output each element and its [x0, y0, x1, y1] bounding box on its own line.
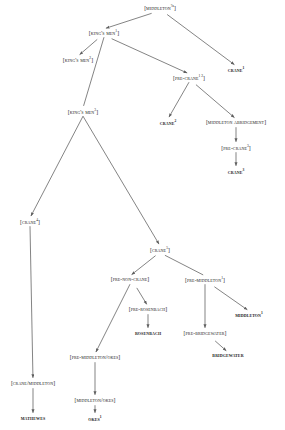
node-superscript: 1: [242, 66, 244, 70]
node-label: Crane: [228, 67, 243, 73]
edge-middleton_a-to-crane_1: [167, 14, 234, 64]
bracket-close: ]: [168, 247, 170, 253]
node-middleton_okes: [Middleton/Okes]: [74, 398, 115, 404]
node-label: Rosenbach: [135, 330, 161, 336]
node-superscript: 3: [242, 168, 244, 172]
bracket-close: ]: [91, 57, 93, 63]
node-label: Pre-Bridgewater: [186, 330, 225, 336]
edge-pre_crane_12-to-crane_2: [169, 82, 189, 117]
node-rosenbach: Rosenbach: [135, 331, 161, 337]
bracket-close: ]: [96, 109, 98, 115]
node-crane_5: [Crane5]: [150, 247, 170, 253]
node-bridgewater: Bridgewater: [212, 353, 243, 359]
node-label: Pre-Middleton/Okes: [72, 354, 119, 360]
bracket-close: ]: [38, 219, 40, 225]
bracket-close: ]: [224, 330, 226, 336]
edge-layer: [0, 0, 285, 430]
edge-pre_crane_12-to-middleton_abr: [196, 85, 234, 118]
node-label: King's Men: [91, 30, 116, 36]
node-middleton_a: [Middleton?a]: [144, 5, 176, 11]
node-crane_3: Crane3: [228, 169, 245, 175]
node-pre_crane_12: [Pre-Crane1 2]: [173, 75, 205, 81]
node-superscript: 1: [100, 415, 102, 419]
edge-pre_bridgewater-to-bridgewater: [215, 341, 226, 351]
node-label: Mathewes: [21, 415, 46, 421]
edge-pre_non_crane-to-pre_middleton_okes: [96, 284, 130, 352]
node-label: Middleton/Okes: [76, 397, 113, 403]
node-label: Pre-Rosenbach: [131, 306, 166, 312]
bracket-close: ]: [53, 380, 55, 386]
edge-kings_men_1-to-kings_men_3: [84, 37, 104, 106]
node-mathewes: Mathewes: [21, 416, 46, 422]
node-pre_rosenbach: [Pre-Rosenbach]: [129, 307, 168, 313]
node-label: Middleton: [146, 5, 171, 11]
node-label: King's Men: [65, 57, 90, 63]
node-label: Okes: [88, 416, 100, 422]
bracket-close: ]: [165, 306, 167, 312]
node-superscript: 1: [261, 311, 263, 315]
edge-kings_men_3-to-crane_4: [31, 116, 83, 216]
node-crane_1: Crane1: [228, 67, 245, 73]
node-crane_middleton: [Crane/Middleton]: [11, 381, 55, 387]
bracket-close: ]: [249, 145, 251, 151]
node-label: Crane: [152, 247, 166, 253]
bracket-close: ]: [117, 30, 119, 36]
edge-kings_men_3-to-crane_5: [83, 116, 159, 244]
node-label: Pre-Crane: [175, 75, 199, 81]
edge-crane_5-to-pre_non_crane: [132, 256, 156, 275]
node-pre_crane_3: [Pre-Crane3]: [221, 145, 250, 151]
node-label: King's Men: [70, 109, 95, 115]
node-label: Crane/Middleton: [13, 380, 53, 386]
edge-middleton_a-to-kings_men_1: [106, 13, 152, 28]
bracket-close: ]: [174, 5, 176, 11]
node-label: Middleton abridgement: [208, 119, 264, 125]
node-superscript: 2: [174, 119, 176, 123]
node-middleton_1: Middleton1: [235, 312, 263, 318]
bracket-close: ]: [223, 277, 225, 283]
edge-crane_4-to-crane_middleton: [30, 226, 33, 378]
node-pre_non_crane: [Pre-Non-Crane]: [111, 277, 150, 283]
bracket-close: ]: [147, 276, 149, 282]
node-middleton_abr: [Middleton abridgement]: [206, 120, 266, 126]
node-label: Middleton: [235, 312, 261, 318]
stemma-diagram: [Middleton?a][King's Men1][King's Men2]C…: [0, 0, 285, 430]
node-kings_men_1: [King's Men1]: [89, 30, 119, 36]
node-label: Crane: [160, 120, 175, 126]
node-label: Pre-Middleton: [187, 277, 221, 283]
node-pre_bridgewater: [Pre-Bridgewater]: [184, 331, 227, 337]
node-kings_men_3: [King's Men3]: [68, 109, 98, 115]
node-label: Crane: [228, 169, 243, 175]
edge-pre_non_crane-to-pre_rosenbach: [137, 288, 147, 304]
node-pre_middleton_1: [Pre-Middleton1]: [185, 277, 225, 283]
edge-crane_5-to-pre_middleton_1: [165, 255, 203, 275]
node-label: Pre-Non-Crane: [113, 276, 148, 282]
bracket-close: ]: [118, 354, 120, 360]
node-label: Pre-Crane: [223, 145, 247, 151]
edge-kings_men_1-to-kings_men_2: [80, 39, 98, 54]
node-label: Crane: [22, 219, 36, 225]
node-crane_2: Crane2: [160, 120, 177, 126]
node-label: Bridgewater: [212, 352, 243, 358]
node-crane_4: [Crane4]: [20, 219, 40, 225]
edge-kings_men_1-to-pre_crane_12: [112, 39, 188, 73]
edge-pre_middleton_1-to-middleton_1: [214, 287, 247, 310]
bracket-close: ]: [114, 397, 116, 403]
node-pre_middleton_okes: [Pre-Middleton/Okes]: [70, 355, 121, 361]
bracket-close: ]: [203, 75, 205, 81]
node-kings_men_2: [King's Men2]: [63, 57, 93, 63]
bracket-close: ]: [264, 119, 266, 125]
node-okes_1: Okes1: [88, 416, 101, 422]
